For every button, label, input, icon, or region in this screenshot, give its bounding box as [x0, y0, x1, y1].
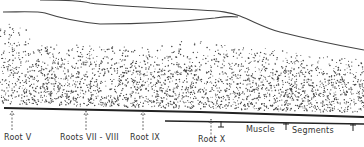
root-label: Roots VII - VIII [60, 133, 119, 142]
cell-dots [0, 24, 364, 113]
muscle-label: Muscle [246, 125, 275, 134]
segment-tick [350, 124, 356, 131]
root-label: Root IX [130, 133, 160, 142]
upper-contour-line [40, 0, 364, 50]
lower-contour-line [3, 12, 238, 24]
diagram: Root V Roots VII - VIII Root IX Root X M… [0, 0, 364, 147]
segment-bar [165, 121, 364, 124]
segments-label: Segments [292, 126, 334, 135]
root-label: Root X [198, 135, 225, 144]
drawing [0, 0, 364, 147]
root-label: Root V [4, 133, 31, 142]
segment-tick [283, 123, 289, 130]
base-line [4, 108, 364, 117]
